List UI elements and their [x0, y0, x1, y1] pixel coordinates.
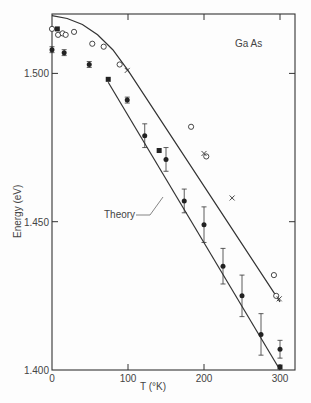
- filled-circle-marker: [182, 198, 187, 203]
- theory-label: Theory: [104, 209, 135, 220]
- filled-circle-marker: [278, 347, 283, 352]
- energy-vs-temperature-chart: 01002003001.4001.4501.500 Ga As Theory T…: [0, 0, 311, 403]
- x-tick-label: 300: [272, 373, 289, 384]
- data-points: [49, 26, 282, 369]
- open-circle-marker: [90, 41, 95, 46]
- filled-circle-marker: [259, 332, 264, 337]
- open-circle-marker: [271, 272, 276, 277]
- material-label: Ga As: [235, 38, 262, 49]
- theory-curve: [108, 82, 280, 370]
- open-circle-marker: [188, 124, 193, 129]
- filled-circle-marker: [50, 47, 55, 52]
- theory-pointer-arrow: [136, 197, 163, 215]
- open-circle-marker: [117, 62, 122, 67]
- filled-circle-marker: [221, 264, 226, 269]
- y-axis-label: Energy (eV): [12, 185, 23, 238]
- filled-circle-marker: [164, 157, 169, 162]
- filled-square-marker: [278, 365, 283, 370]
- axis-ticks: 01002003001.4001.4501.500: [24, 14, 295, 384]
- x-axis-label: T (°K): [140, 381, 166, 392]
- open-circle-marker: [71, 29, 76, 34]
- filled-circle-marker: [142, 133, 147, 138]
- open-circle-marker: [63, 32, 68, 37]
- filled-circle-marker: [202, 222, 207, 227]
- y-tick-label: 1.450: [24, 217, 49, 228]
- filled-circle-marker: [240, 293, 245, 298]
- open-circle-marker: [49, 26, 54, 31]
- filled-square-marker: [157, 148, 162, 153]
- open-circle-marker: [204, 154, 209, 159]
- y-tick-label: 1.500: [24, 68, 49, 79]
- filled-circle-marker: [87, 62, 92, 67]
- theory-curves: [52, 16, 280, 370]
- x-tick-label: 100: [120, 373, 137, 384]
- filled-square-marker: [106, 77, 111, 82]
- open-circle-marker: [101, 44, 106, 49]
- x-tick-label: 0: [49, 373, 55, 384]
- filled-circle-marker: [62, 50, 67, 55]
- filled-circle-marker: [125, 98, 130, 103]
- y-tick-label: 1.400: [24, 365, 49, 376]
- cross-marker: [230, 195, 235, 200]
- x-tick-label: 200: [196, 373, 213, 384]
- filled-square-marker: [55, 26, 60, 31]
